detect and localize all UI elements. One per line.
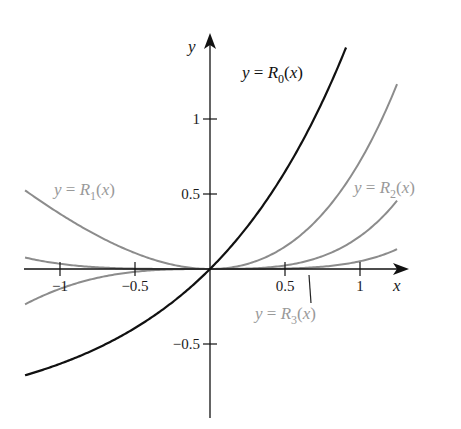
curve-r0 <box>25 47 346 375</box>
y-axis-label: y <box>186 37 196 56</box>
ticks-group: −1−0.50.5110.5−0.5 <box>52 111 364 352</box>
x-tick-label: 1 <box>356 278 364 294</box>
label-r1: y = R1(x) <box>52 180 115 203</box>
curve-r1 <box>25 84 397 269</box>
curve-r3 <box>25 249 397 269</box>
x-axis-label: x <box>392 276 401 295</box>
curves-group <box>25 47 397 375</box>
x-tick-label: −0.5 <box>121 278 148 294</box>
x-axis <box>24 263 409 275</box>
label-r2: y = R2(x) <box>352 178 415 201</box>
x-tick-label: −1 <box>52 278 68 294</box>
label-r3: y = R3(x) <box>253 304 316 327</box>
x-tick-label: 0.5 <box>276 278 295 294</box>
label-r0: y = R0(x) <box>240 63 303 86</box>
y-axis <box>204 33 216 418</box>
curve-r2 <box>25 201 397 305</box>
remainder-curves-chart: −1−0.50.5110.5−0.5 x y y = R0(x)y = R1(x… <box>0 0 461 429</box>
y-tick-label: 0.5 <box>181 186 200 202</box>
r3-leader-line <box>309 275 311 303</box>
y-tick-label: 1 <box>193 111 201 127</box>
y-tick-label: −0.5 <box>173 336 200 352</box>
